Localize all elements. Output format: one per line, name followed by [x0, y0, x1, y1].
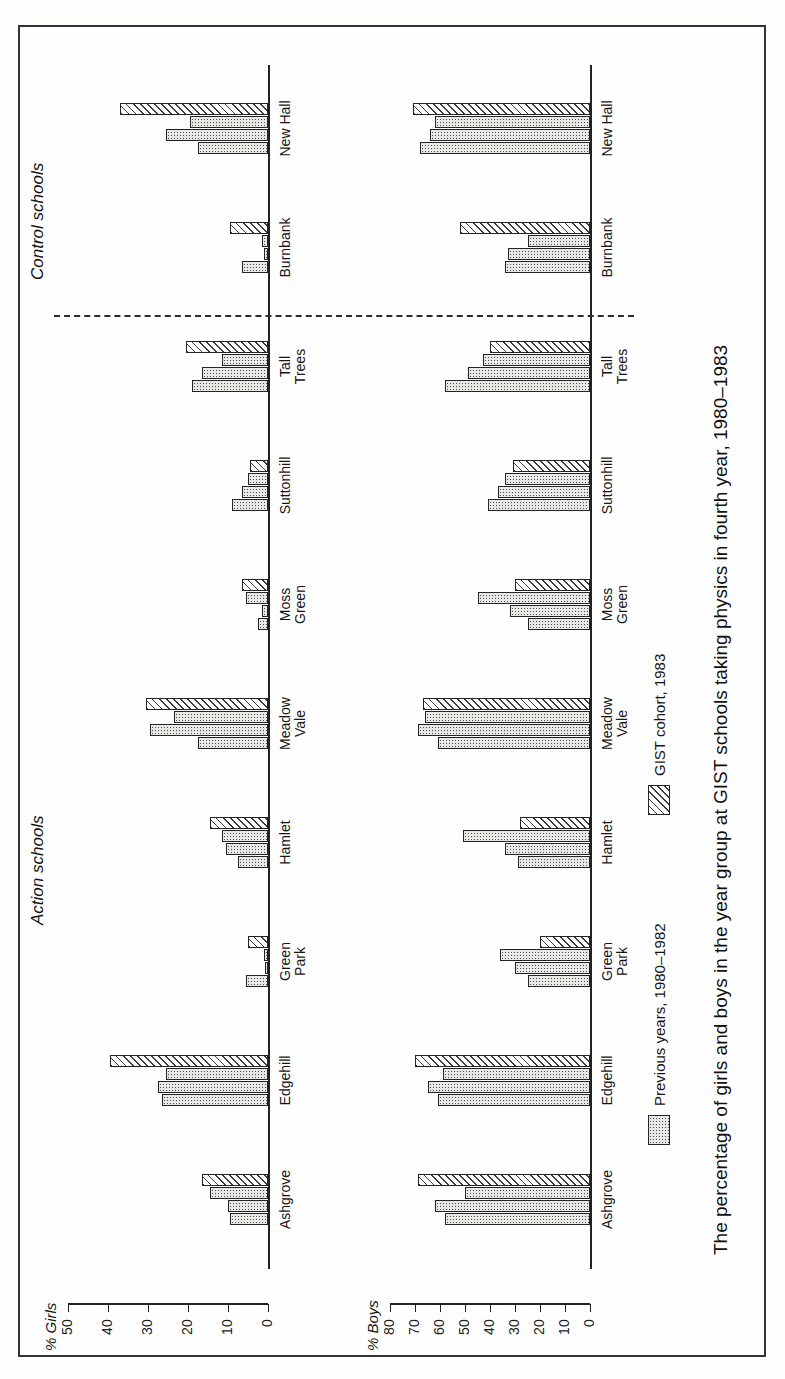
bar [438, 1094, 591, 1106]
axis-tick [188, 1304, 190, 1312]
axis-tick-label: 50 [59, 1319, 75, 1351]
category-label: Meadow Vale [600, 664, 630, 783]
bar [166, 129, 268, 141]
bar [430, 129, 590, 141]
bar [230, 222, 268, 234]
bar [166, 1068, 268, 1080]
bar [246, 975, 268, 987]
bar [483, 354, 591, 366]
axis-tick-label: 20 [179, 1319, 195, 1351]
boys-axis-title: % Boys [364, 1300, 381, 1351]
bar [242, 486, 268, 498]
axis-tick-label: 0 [259, 1319, 275, 1351]
category-label: Hamlet [278, 783, 293, 902]
bar [500, 949, 590, 961]
girls-axis-title: % Girls [42, 1303, 59, 1351]
axis-tick [390, 1304, 392, 1312]
category-label: Moss Green [278, 545, 308, 664]
bar [515, 579, 590, 591]
bar [222, 830, 268, 842]
category-label: Moss Green [600, 545, 630, 664]
bar [425, 711, 590, 723]
axis-tick-label: 10 [219, 1319, 235, 1351]
bar [242, 579, 268, 591]
action-control-divider [54, 315, 634, 317]
bar [498, 486, 591, 498]
axis-tick-label: 60 [431, 1319, 447, 1351]
bar [230, 1213, 268, 1225]
bar [505, 843, 590, 855]
bar [192, 380, 268, 392]
bar [488, 499, 591, 511]
bar [513, 460, 591, 472]
axis-tick [465, 1304, 467, 1312]
bar [520, 817, 590, 829]
axis-tick-label: 10 [556, 1319, 572, 1351]
legend-swatch-gist-cohort [648, 785, 670, 815]
axis-tick [68, 1304, 70, 1312]
category-label: Tall Trees [600, 307, 630, 426]
bar [438, 737, 591, 749]
axis-tick-label: 30 [139, 1319, 155, 1351]
bar [210, 817, 268, 829]
bar [190, 116, 268, 128]
axis-tick [148, 1304, 150, 1312]
bar [248, 936, 268, 948]
axis-tick-label: 30 [506, 1319, 522, 1351]
figure-caption: The percentage of girls and boys in the … [710, 345, 732, 1255]
category-label: Burnbank [600, 188, 615, 307]
bar [150, 724, 268, 736]
axis-tick [228, 1304, 230, 1312]
axis-tick-label: 0 [581, 1319, 597, 1351]
bar [246, 592, 268, 604]
axis-tick [415, 1304, 417, 1312]
bar [435, 116, 590, 128]
category-label: Ashgrove [278, 1140, 293, 1259]
bar [420, 142, 590, 154]
girls-bar-chart: % Girls 01020304050AshgroveEdgehillGreen… [68, 69, 268, 1259]
axis-tick [540, 1304, 542, 1312]
bar [505, 473, 590, 485]
bar [210, 1187, 268, 1199]
bar [264, 949, 268, 961]
bar [428, 1081, 591, 1093]
bar [435, 1200, 590, 1212]
bar [258, 618, 268, 630]
axis-tick [268, 1304, 270, 1312]
bar [174, 711, 268, 723]
category-label: Edgehill [600, 1021, 615, 1140]
category-label: Ashgrove [600, 1140, 615, 1259]
axis-tick [590, 1304, 592, 1312]
bar [418, 724, 591, 736]
axis-tick-label: 40 [99, 1319, 115, 1351]
bar [528, 235, 591, 247]
category-label: New Hall [600, 69, 615, 188]
bar [250, 460, 268, 472]
bar [198, 737, 268, 749]
bar [468, 367, 591, 379]
bar [262, 235, 268, 247]
category-label: Green Park [600, 902, 630, 1021]
axis-tick [565, 1304, 567, 1312]
bar [202, 1174, 268, 1186]
bar [413, 103, 591, 115]
legend-label-gist-cohort: GIST cohort, 1983 [651, 654, 668, 776]
bar [518, 856, 591, 868]
bar [222, 354, 268, 366]
bar [528, 975, 591, 987]
axis-tick-label: 80 [381, 1319, 397, 1351]
bar [415, 1055, 590, 1067]
bar [490, 341, 590, 353]
category-label: Hamlet [600, 783, 615, 902]
bar [186, 341, 268, 353]
axis-tick-label: 50 [456, 1319, 472, 1351]
axis-tick-label: 70 [406, 1319, 422, 1351]
category-label: Burnbank [278, 188, 293, 307]
legend-item-previous: Previous years, 1980–1982 [648, 923, 670, 1145]
bar [445, 380, 590, 392]
bar [120, 103, 268, 115]
bar [228, 1200, 268, 1212]
bar [238, 856, 268, 868]
bar [443, 1068, 591, 1080]
legend-label-previous-years: Previous years, 1980–1982 [651, 923, 668, 1106]
